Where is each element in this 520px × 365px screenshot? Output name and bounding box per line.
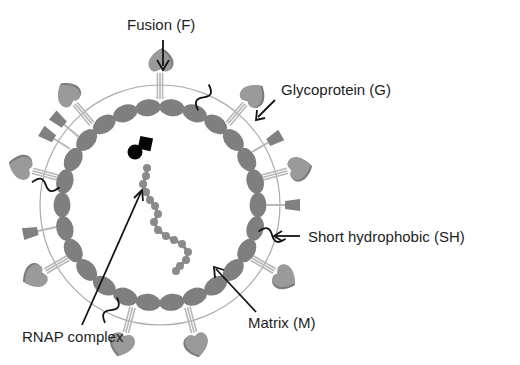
fusion-stalk [75,104,92,124]
fusion-protein-head [5,151,34,181]
glycoprotein-knob [22,225,39,240]
sh-protein [100,295,121,325]
rna-strand [143,168,188,271]
glycoprotein-knob [265,130,284,148]
nucleoprotein-bead [142,172,150,180]
fusion-stalk [44,256,67,269]
glycoprotein-knob [285,199,300,211]
glycoprotein [285,199,300,211]
short-hydrophobic-label: Short hydrophobic (SH) [308,229,465,244]
fusion-stalk [253,256,276,269]
sh-protein [193,82,213,112]
fusion-head [286,153,314,181]
fusion-protein-head [17,260,50,293]
nucleoprotein-bead [184,248,192,256]
sh-squiggle [100,295,121,325]
membrane-ring [40,85,280,325]
label-arrows [82,40,300,325]
matrix-protein [54,214,76,242]
viral-envelope [40,85,280,325]
matrix-protein [54,193,71,218]
fusion-head [237,78,269,110]
rnap-complex-shape [128,136,154,160]
nucleoprotein-bead [139,180,147,188]
glyco-stalk [53,138,70,149]
matrix-label: Matrix (M) [248,315,316,330]
sh-protein [257,226,287,243]
glycoprotein-knob [38,126,57,144]
nucleoprotein-bead [143,164,151,172]
nucleoprotein-bead [151,202,159,210]
matrix-protein [158,98,185,118]
matrix-protein [244,167,266,195]
fusion-stalk [250,260,273,273]
nucleoprotein-bead [150,218,158,226]
nucleoprotein-bead [162,232,170,240]
rnap-complex-label: RNAP complex [22,329,123,344]
fusion-protein-head [286,153,315,183]
nucleoprotein-bead [154,210,162,218]
fusion-stalk [46,258,69,271]
matrix-protein [250,193,267,218]
glycoprotein [265,130,284,148]
nucleoprotein-bead [182,256,190,264]
nucleoprotein-bead [178,240,186,248]
fusion-protein-head [181,331,211,360]
matrix-protein [135,98,162,118]
fusion-stalk [47,260,70,273]
glyco-stalk [37,227,57,231]
fusion-stalk [252,258,275,271]
nucleoprotein-bead [154,226,162,234]
sh-squiggle [193,82,213,112]
matrix-protein-layer [54,98,267,312]
fusion-head [183,331,211,359]
glycoprotein [22,225,39,240]
rsv-virion-diagram [0,0,520,365]
matrix-protein [135,292,162,312]
sh-squiggle [257,226,287,243]
fusion-head [51,78,83,110]
matrix-protein [158,292,185,312]
glycoprotein-label: Glycoprotein (G) [281,82,391,97]
fusion-label: Fusion (F) [127,17,195,32]
rna-genome [139,164,192,275]
phosphoprotein-p-shape [138,136,153,151]
nucleoprotein-bead [170,236,178,244]
fusion-stalk [228,104,245,124]
nucleoprotein-bead [172,267,180,275]
glycoprotein [38,126,57,144]
matrix-protein [54,167,76,195]
